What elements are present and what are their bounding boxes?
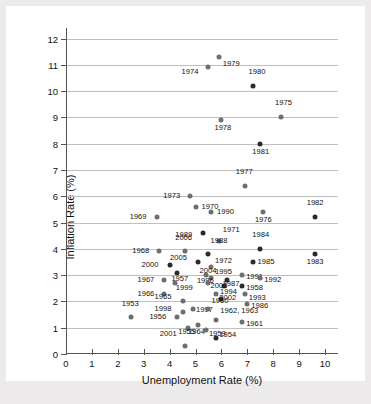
data-label-1973: 1973 [163, 192, 180, 200]
data-label-1981: 1981 [252, 148, 269, 156]
y-tick-label-6: 6 [53, 191, 58, 202]
data-point-1970 [193, 204, 198, 209]
data-label-1955: 1955 [178, 328, 195, 336]
gridline-y-11 [66, 65, 338, 66]
gridline-y-10 [66, 91, 338, 92]
data-point-2002 [214, 291, 219, 296]
y-tick-9 [61, 117, 67, 118]
data-point-1984 [258, 246, 263, 251]
gridline-y-8 [66, 144, 338, 145]
x-tick-5 [196, 349, 197, 355]
x-axis-line [66, 353, 338, 354]
x-tick-label-0: 0 [63, 358, 68, 369]
data-point-1953 [128, 315, 133, 320]
y-tick-label-1: 1 [53, 322, 58, 333]
data-label-1979: 1979 [223, 60, 240, 68]
data-label-1978: 1978 [214, 124, 231, 132]
data-label-1966: 1966 [137, 290, 154, 298]
data-label-1995: 1995 [215, 268, 232, 276]
y-tick-7 [61, 170, 67, 171]
data-label-1961: 1961 [246, 320, 263, 328]
x-tick-label-2: 2 [115, 358, 120, 369]
gridline-y-2 [66, 301, 338, 302]
data-point-1974 [206, 65, 211, 70]
data-point-1960 [206, 307, 211, 312]
x-tick-label-5: 5 [193, 358, 198, 369]
data-point-2000 [167, 262, 172, 267]
x-tick-label-7: 7 [245, 358, 250, 369]
data-point-1965 [180, 299, 185, 304]
y-tick-label-7: 7 [53, 164, 58, 175]
data-point-1969 [154, 215, 159, 220]
x-tick-1 [92, 349, 93, 355]
x-tick-3 [144, 349, 145, 355]
x-tick-label-4: 4 [167, 358, 172, 369]
data-point-1982 [312, 215, 317, 220]
gridline-y-5 [66, 223, 338, 224]
chart-figure: Inflation Rate (%) Unemployment Rate (%)… [6, 6, 365, 381]
x-tick-8 [273, 349, 274, 355]
data-point-1962-1963 [214, 317, 219, 322]
data-point-1973 [188, 194, 193, 199]
data-label-1977: 1977 [236, 168, 253, 176]
y-tick-3 [61, 275, 67, 276]
data-point-1997 [190, 307, 195, 312]
data-point-1975 [279, 115, 284, 120]
data-label-1968: 1968 [132, 247, 149, 255]
data-label-1982: 1982 [307, 199, 324, 207]
data-point-1980 [250, 83, 255, 88]
x-tick-7 [247, 349, 248, 355]
data-label-1975: 1975 [275, 99, 292, 107]
x-tick-9 [299, 349, 300, 355]
data-label-1993: 1993 [249, 294, 266, 302]
y-tick-label-8: 8 [53, 138, 58, 149]
data-point-1988 [206, 252, 211, 257]
data-label-1962-1963: 1962, 1963 [220, 307, 258, 315]
data-label-1953: 1953 [122, 300, 139, 308]
data-point-1956 [175, 315, 180, 320]
y-tick-11 [61, 65, 67, 66]
x-tick-label-1: 1 [89, 358, 94, 369]
data-label-1956: 1956 [149, 313, 166, 321]
data-point-1989 [201, 231, 206, 236]
data-point-1978 [219, 118, 224, 123]
data-label-1980: 1980 [249, 68, 266, 76]
x-axis-title: Unemployment Rate (%) [66, 374, 338, 386]
data-point-1961 [240, 320, 245, 325]
y-tick-4 [61, 249, 67, 250]
data-label-1988: 1988 [210, 237, 227, 245]
data-label-2001: 2001 [160, 330, 177, 338]
data-point-1968 [157, 249, 162, 254]
x-tick-label-3: 3 [141, 358, 146, 369]
data-label-1990: 1990 [217, 208, 234, 216]
y-tick-label-0: 0 [53, 349, 58, 360]
y-tick-label-9: 9 [53, 112, 58, 123]
data-point-1992 [258, 275, 263, 280]
gridline-y-9 [66, 117, 338, 118]
y-tick-10 [61, 91, 67, 92]
gridline-y-6 [66, 196, 338, 197]
gridline-y-12 [66, 39, 338, 40]
y-tick-1 [61, 328, 67, 329]
data-point-1990 [209, 210, 214, 215]
data-label-1985: 1985 [258, 258, 275, 266]
y-axis-line [66, 28, 67, 354]
y-tick-label-5: 5 [53, 217, 58, 228]
data-label-1954: 1954 [219, 331, 236, 339]
data-label-2005: 2005 [170, 254, 187, 262]
y-tick-label-12: 12 [47, 33, 58, 44]
x-tick-10 [325, 349, 326, 355]
data-label-1971: 1971 [223, 226, 240, 234]
y-tick-8 [61, 144, 67, 145]
y-tick-label-11: 11 [48, 59, 58, 70]
x-tick-6 [221, 349, 222, 355]
gridline-y-7 [66, 170, 338, 171]
data-label-1960: 1960 [211, 297, 228, 305]
data-point-1981 [258, 141, 263, 146]
x-tick-label-8: 8 [271, 358, 276, 369]
x-tick-0 [66, 349, 67, 355]
data-label-2003: 2003 [210, 282, 227, 290]
data-point-1958 [240, 283, 245, 288]
data-point-1954 [214, 336, 219, 341]
y-tick-label-10: 10 [47, 86, 58, 97]
